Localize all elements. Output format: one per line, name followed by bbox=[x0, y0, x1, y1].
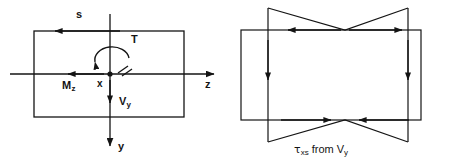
torque-label: T bbox=[131, 33, 138, 45]
left-panel-drawing bbox=[0, 0, 231, 165]
s-coordinate-label: s bbox=[76, 8, 82, 20]
bottom-flange-shear-profile bbox=[268, 120, 408, 142]
z-axis-label: z bbox=[205, 78, 211, 90]
x-axis-label: x bbox=[97, 78, 103, 89]
top-flange-shear-profile bbox=[268, 8, 408, 30]
y-axis-label: y bbox=[118, 140, 124, 152]
shear-force-label: Vy bbox=[119, 95, 131, 109]
shear-flow-caption: τxs from Vy bbox=[294, 143, 348, 157]
origin-point bbox=[107, 71, 112, 76]
figure-canvas: s T Mz x Vy z y τxs from Vy bbox=[0, 0, 462, 165]
torque-arc-arrow bbox=[95, 47, 129, 62]
right-panel-drawing bbox=[231, 0, 462, 165]
bending-moment-label: Mz bbox=[62, 79, 75, 93]
